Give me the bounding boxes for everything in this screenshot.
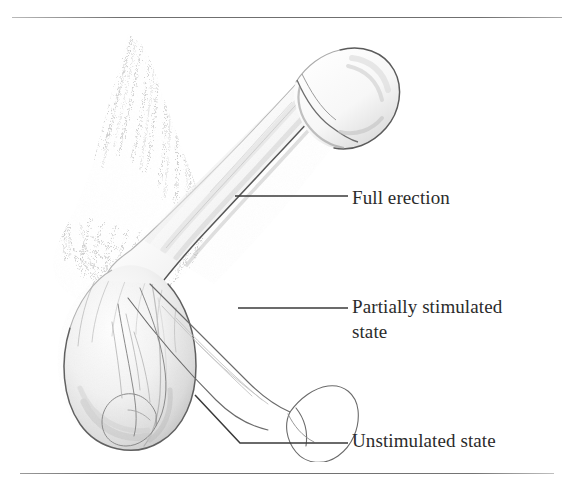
bottom-divider-rule [20, 473, 554, 474]
label-unstimulated: Unstimulated state [352, 428, 496, 453]
top-divider-rule [12, 17, 562, 18]
label-partially-stimulated: Partially stimulated state [352, 294, 502, 344]
anatomical-illustration [0, 22, 573, 462]
label-full-erection: Full erection [352, 185, 450, 210]
figure-page: Full erection Partially stimulated state… [0, 0, 573, 488]
